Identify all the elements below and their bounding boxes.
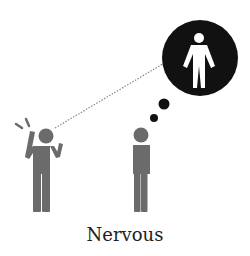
caption-label: Nervous [0, 224, 250, 245]
illustration: Nervous [0, 0, 250, 256]
nervous-person-icon [16, 119, 63, 212]
trail-dot-small [150, 114, 158, 122]
trail-dot-large [159, 99, 170, 110]
diagram-canvas [0, 0, 250, 256]
thought-bubble [150, 20, 238, 122]
standing-person-icon [133, 128, 150, 213]
gaze-line [55, 62, 166, 128]
